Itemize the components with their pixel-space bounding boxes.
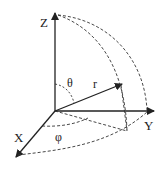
- equator-arc: [18, 112, 147, 155]
- spherical-coordinates-diagram: Z Y X r θ φ: [0, 0, 165, 172]
- phi-arc: [42, 118, 88, 126]
- projection-vertical: [121, 85, 127, 131]
- y-axis-label: Y: [144, 118, 154, 133]
- r-label: r: [93, 77, 97, 91]
- x-axis-label: X: [14, 130, 24, 145]
- phi-label: φ: [55, 130, 62, 144]
- r-vector: [55, 84, 122, 111]
- projection-ground: [55, 111, 127, 131]
- z-axis-label: Z: [40, 15, 48, 30]
- theta-label: θ: [67, 76, 73, 90]
- meridian-arc: [58, 15, 127, 131]
